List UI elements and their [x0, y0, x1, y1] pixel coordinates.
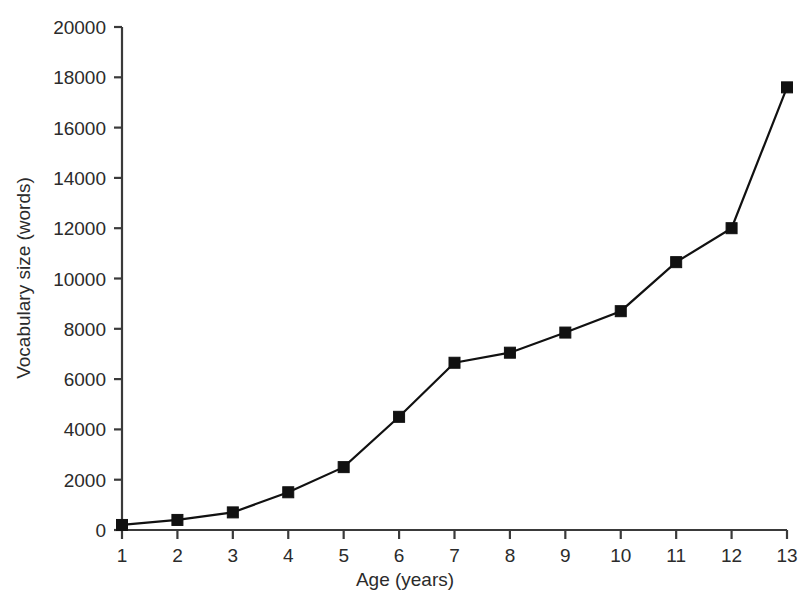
x-axis-title: Age (years)	[356, 569, 454, 590]
data-point-marker	[560, 327, 571, 338]
y-tick-label: 0	[95, 520, 106, 541]
data-point-marker	[394, 411, 405, 422]
x-tick-label: 9	[560, 545, 571, 566]
chart-page: 0200040006000800010000120001400016000180…	[0, 0, 806, 602]
data-point-marker	[338, 462, 349, 473]
x-tick-label: 12	[721, 545, 742, 566]
data-point-marker	[726, 223, 737, 234]
x-tick-label: 13	[776, 545, 797, 566]
y-tick-label: 6000	[64, 369, 106, 390]
x-tick-label: 6	[394, 545, 405, 566]
y-tick-label: 12000	[53, 218, 106, 239]
x-tick-label: 3	[228, 545, 239, 566]
data-point-marker	[449, 357, 460, 368]
x-tick-label: 4	[283, 545, 294, 566]
y-tick-label: 18000	[53, 67, 106, 88]
x-tick-label: 1	[117, 545, 128, 566]
data-point-marker	[172, 514, 183, 525]
y-axis-title: Vocabulary size (words)	[13, 177, 34, 379]
data-point-marker	[504, 347, 515, 358]
y-tick-label: 10000	[53, 269, 106, 290]
data-point-marker	[117, 519, 128, 530]
x-tick-label: 7	[449, 545, 460, 566]
y-tick-label: 2000	[64, 470, 106, 491]
y-tick-label: 14000	[53, 168, 106, 189]
y-tick-label: 4000	[64, 419, 106, 440]
data-point-marker	[782, 82, 793, 93]
x-tick-label: 5	[338, 545, 349, 566]
y-tick-label: 20000	[53, 17, 106, 38]
vocabulary-growth-line-chart: 0200040006000800010000120001400016000180…	[0, 0, 806, 602]
data-point-marker	[283, 487, 294, 498]
data-point-marker	[671, 257, 682, 268]
x-tick-label: 10	[610, 545, 631, 566]
x-tick-label: 2	[172, 545, 183, 566]
x-tick-label: 8	[505, 545, 516, 566]
y-tick-label: 16000	[53, 118, 106, 139]
y-tick-label: 8000	[64, 319, 106, 340]
x-tick-label: 11	[666, 545, 686, 566]
data-point-marker	[227, 507, 238, 518]
data-point-marker	[615, 306, 626, 317]
